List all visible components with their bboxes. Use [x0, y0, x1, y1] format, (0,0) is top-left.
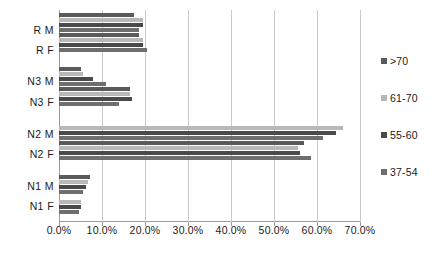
legend-item-37-54[interactable]: 37-54	[381, 166, 418, 178]
bar-n1-f-61-70	[59, 200, 81, 204]
bar-n2-f->70	[59, 141, 304, 145]
bar-n2-f-37-54	[59, 156, 311, 160]
legend-label: 61-70	[390, 92, 418, 104]
bar-n3-m-61-70	[59, 72, 83, 76]
x-axis-labels: 0.0%10.0%20.0%30.0%40.0%50.0%60.0%70.0%	[0, 224, 443, 242]
gridline	[274, 10, 275, 222]
bar-r-m->70	[59, 13, 134, 17]
y-axis-label-n1-f: N1 F	[30, 200, 54, 212]
y-axis-label-n2-m: N2 M	[27, 128, 54, 140]
y-axis-labels: R M R F N3 M N3 F N2 M N2 F N1 M N1 F	[0, 10, 54, 222]
bar-n3-m-55-60	[59, 77, 93, 81]
x-axis-tick-label: 20.0%	[130, 224, 161, 236]
x-axis-tick-label: 60.0%	[302, 224, 333, 236]
bar-chart: R M R F N3 M N3 F N2 M N2 F N1 M N1 F 0.…	[0, 0, 443, 254]
bar-r-f->70	[59, 33, 139, 37]
plot-area	[59, 10, 360, 222]
y-axis-label-r-m: R M	[34, 24, 54, 36]
legend-item-gt70[interactable]: >70	[381, 55, 408, 67]
y-axis-label-n2-f: N2 F	[30, 148, 54, 160]
bar-n1-m-37-54	[59, 190, 83, 194]
bar-n2-m-61-70	[59, 126, 343, 130]
bar-n2-m-37-54	[59, 136, 323, 140]
legend-swatch-icon	[381, 58, 387, 64]
legend-swatch-icon	[381, 132, 387, 138]
bar-r-f-37-54	[59, 48, 147, 52]
y-axis-label-n3-m: N3 M	[27, 75, 54, 87]
bar-n3-f-37-54	[59, 102, 119, 106]
x-axis-tick-label: 40.0%	[216, 224, 247, 236]
x-axis-tick-label: 50.0%	[259, 224, 290, 236]
bar-r-f-61-70	[59, 38, 143, 42]
bar-n2-f-55-60	[59, 151, 300, 155]
bar-n1-m-61-70	[59, 180, 88, 184]
legend-item-55-60[interactable]: 55-60	[381, 129, 418, 141]
gridline	[188, 10, 189, 222]
legend-label: >70	[390, 55, 408, 67]
legend-label: 37-54	[390, 166, 418, 178]
x-axis-tick-label: 30.0%	[173, 224, 204, 236]
bar-n1-f-37-54	[59, 210, 79, 214]
y-axis-label-n3-f: N3 F	[30, 96, 54, 108]
gridline	[145, 10, 146, 222]
legend-item-61-70[interactable]: 61-70	[381, 92, 418, 104]
bar-n1-m-55-60	[59, 185, 86, 189]
bar-n1-m->70	[59, 175, 90, 179]
bar-r-f-55-60	[59, 43, 143, 47]
legend-swatch-icon	[381, 95, 387, 101]
bar-r-m-55-60	[59, 23, 143, 27]
legend-label: 55-60	[390, 129, 418, 141]
category-axis-line	[59, 221, 360, 222]
x-axis-tick-label: 0.0%	[47, 224, 72, 236]
bar-n3-f->70	[59, 87, 130, 91]
bar-n3-m-37-54	[59, 82, 106, 86]
y-axis-label-n1-m: N1 M	[27, 180, 54, 192]
bar-n2-m-55-60	[59, 131, 336, 135]
bar-n2-f-61-70	[59, 146, 298, 150]
bar-n1-f-55-60	[59, 205, 81, 209]
bar-n3-f-55-60	[59, 97, 132, 101]
bar-n3-f-61-70	[59, 92, 130, 96]
bar-n3-m->70	[59, 67, 81, 71]
bar-r-m-61-70	[59, 18, 143, 22]
gridline	[317, 10, 318, 222]
y-axis-label-r-f: R F	[36, 44, 54, 56]
x-axis-tick-label: 70.0%	[345, 224, 376, 236]
x-axis-tick-label: 10.0%	[87, 224, 118, 236]
gridline	[360, 10, 361, 222]
legend-swatch-icon	[381, 169, 387, 175]
gridline	[231, 10, 232, 222]
bar-r-m-37-54	[59, 28, 139, 32]
